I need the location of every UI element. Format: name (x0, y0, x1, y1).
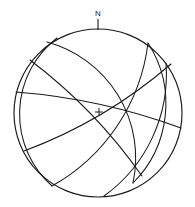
stereonet-figure: N (0, 0, 195, 207)
stereonet-canvas: N (0, 0, 195, 207)
north-label: N (95, 9, 101, 18)
